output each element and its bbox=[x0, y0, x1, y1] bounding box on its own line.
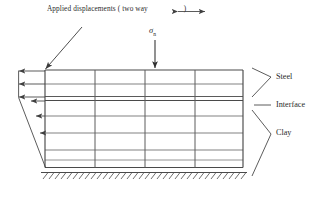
mesh-horizontal-lines bbox=[45, 70, 243, 168]
label-leaders bbox=[252, 68, 271, 176]
finite-element-mesh bbox=[45, 70, 243, 168]
caption-close-paren: ) bbox=[184, 4, 187, 13]
diagonal-leader-arrow-icon bbox=[46, 27, 83, 69]
layer-label-interface: Interface bbox=[276, 101, 305, 109]
layer-label-steel: Steel bbox=[276, 73, 292, 81]
sigma-subscript: n bbox=[153, 31, 156, 37]
hatched-ground-icon bbox=[41, 173, 247, 180]
layer-label-clay: Clay bbox=[276, 129, 291, 137]
applied-displacements-caption: Applied displacements ( two way ) bbox=[47, 5, 186, 12]
angle-bracket-icon-clay bbox=[252, 110, 271, 176]
caption-text: Applied displacements ( two way bbox=[47, 4, 148, 13]
angle-bracket-icon-steel bbox=[252, 68, 271, 97]
mesh-vertical-lines bbox=[45, 70, 243, 168]
figure-canvas: Applied displacements ( two way ) σn Ste… bbox=[0, 0, 327, 200]
load-symbol-label: σn bbox=[149, 27, 156, 37]
displacement-arrow-group bbox=[19, 71, 46, 168]
